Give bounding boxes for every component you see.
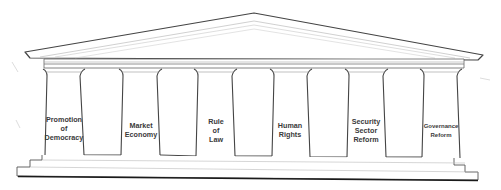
pillar-4-shape (270, 69, 312, 157)
label-line: Reform (343, 135, 389, 144)
pillar-label-human-rights: Human Rights (267, 121, 313, 139)
label-line: Rights (267, 130, 313, 139)
label-line: Economy (118, 130, 164, 139)
label-line: Governance (418, 122, 464, 131)
label-line: Promotion (41, 115, 87, 124)
label-line: of (41, 124, 87, 133)
pillar-label-market-economy: Market Economy (118, 121, 164, 139)
pillar-6-shape (420, 69, 462, 158)
pillar-label-promotion-of-democracy: Promotion of Democracy (41, 115, 87, 142)
label-line: Human (267, 121, 313, 130)
label-line: of (193, 126, 239, 135)
label-line: Market (118, 121, 164, 130)
label-line: Reform (418, 131, 464, 140)
pillar-1-shape (43, 69, 85, 155)
pillar-label-security-sector-reform: Security Sector Reform (343, 117, 389, 144)
label-line: Security (343, 117, 389, 126)
label-line: Democracy (41, 133, 87, 142)
temple-diagram (0, 0, 501, 190)
label-line: Sector (343, 126, 389, 135)
label-line: Law (193, 135, 239, 144)
columns (43, 69, 462, 158)
base-steps (17, 155, 478, 181)
pillar-label-governance-reform: Governance Reform (418, 122, 464, 140)
entablature (44, 59, 464, 68)
pediment-roof (25, 13, 483, 60)
pillar-2-shape (119, 69, 162, 155)
label-line: Rule (193, 117, 239, 126)
pillar-label-rule-of-law: Rule of Law (193, 117, 239, 144)
